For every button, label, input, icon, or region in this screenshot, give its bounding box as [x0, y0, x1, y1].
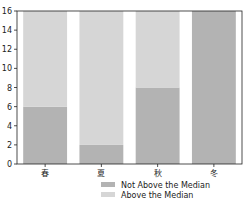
x-tick-label: 冬	[210, 168, 218, 178]
legend-swatch	[101, 192, 115, 197]
stacked-bar-chart: 0246810121416春夏秋冬 Not Above the MedianAb…	[0, 0, 248, 205]
y-tick-label: 0	[7, 160, 12, 169]
bar-segment-above-median	[23, 11, 67, 107]
legend-label: Above the Median	[121, 191, 193, 200]
y-tick-label: 14	[2, 26, 12, 35]
legend-swatch	[101, 182, 115, 187]
y-tick-label: 12	[2, 45, 12, 54]
x-tick-label: 春	[41, 168, 49, 178]
y-tick-label: 4	[7, 122, 12, 131]
x-tick-label: 秋	[154, 168, 162, 178]
bar-segment-not-above-median	[79, 145, 123, 164]
y-tick-label: 16	[2, 7, 12, 16]
bars-group	[23, 11, 236, 164]
bar-segment-not-above-median	[136, 88, 180, 165]
bar-segment-above-median	[79, 11, 123, 145]
legend: Not Above the MedianAbove the Median	[101, 181, 210, 200]
y-tick-label: 6	[7, 103, 12, 112]
x-tick-label: 夏	[97, 169, 105, 178]
bar-segment-not-above-median	[23, 107, 67, 164]
bar-segment-not-above-median	[192, 11, 236, 164]
y-tick-label: 2	[7, 141, 12, 150]
y-tick-label: 8	[7, 84, 12, 93]
legend-label: Not Above the Median	[121, 181, 210, 190]
bar-segment-above-median	[136, 11, 180, 88]
y-tick-label: 10	[2, 64, 12, 73]
